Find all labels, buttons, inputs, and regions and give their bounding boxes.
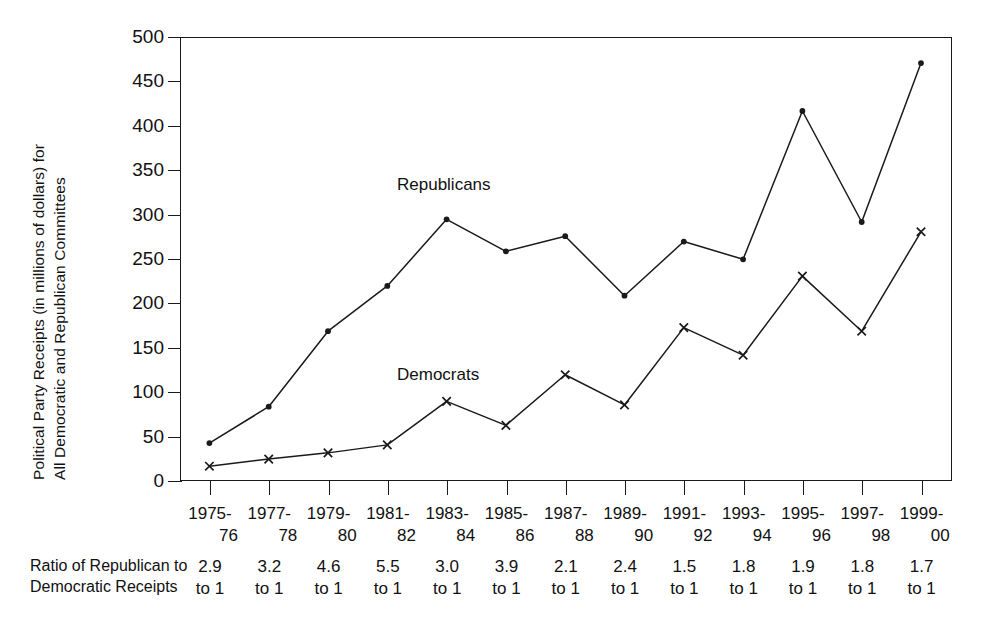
chart-page: Political Party Receipts (in millions of… [0, 0, 984, 633]
data-point [739, 351, 747, 359]
data-point [800, 108, 806, 114]
x-tick-mark [862, 481, 863, 495]
data-point [740, 256, 746, 262]
y-axis-title-line-1: Political Party Receipts (in millions of… [30, 144, 48, 480]
x-tick-mark [625, 481, 626, 495]
data-point [562, 233, 568, 239]
data-point [503, 248, 509, 254]
data-point [798, 272, 806, 280]
data-point [266, 404, 272, 410]
x-tick-mark [210, 481, 211, 495]
x-tick-mark [507, 481, 508, 495]
ratio-value: 1.7 [886, 556, 958, 578]
series-republicans [207, 60, 924, 446]
x-tick-mark [684, 481, 685, 495]
data-point [384, 283, 390, 289]
data-point [207, 440, 213, 446]
data-point [680, 323, 688, 331]
ratio-row-label-line-1: Ratio of Republican to [30, 557, 187, 574]
x-tick-mark [744, 481, 745, 495]
x-tick-mark [566, 481, 567, 495]
data-point [502, 421, 510, 429]
series-line [209, 232, 921, 466]
data-point [681, 239, 687, 245]
plot-area [180, 37, 952, 481]
x-axis-label-line-2: 00 [886, 525, 958, 547]
data-point [918, 60, 924, 66]
x-tick-mark [388, 481, 389, 495]
y-tick-label: 400 [108, 116, 164, 135]
y-axis-title-line-2: All Democratic and Republican Committees [51, 177, 69, 480]
series-label-democrats: Democrats [397, 365, 479, 385]
data-point [561, 371, 569, 379]
y-tick-label: 50 [108, 427, 164, 446]
y-axis-title: Political Party Receipts (in millions of… [0, 0, 60, 500]
y-tick-label: 200 [108, 293, 164, 312]
ratio-suffix: to 1 [886, 578, 958, 600]
y-tick-label: 350 [108, 160, 164, 179]
y-tick-label: 500 [108, 27, 164, 46]
data-point [622, 293, 628, 299]
y-tick-label: 450 [108, 71, 164, 90]
y-tick-label: 0 [108, 471, 164, 490]
y-tick-label: 250 [108, 249, 164, 268]
y-tick-label: 300 [108, 205, 164, 224]
y-tick-label: 100 [108, 382, 164, 401]
series-line [209, 63, 921, 443]
x-axis-label: 1999-00 [886, 503, 958, 547]
data-point [858, 327, 866, 335]
x-tick-mark [803, 481, 804, 495]
data-point [620, 401, 628, 409]
series-canvas [181, 38, 950, 479]
x-tick-mark [922, 481, 923, 495]
x-axis-label-line-1: 1999- [886, 503, 958, 525]
data-point [444, 216, 450, 222]
data-point [859, 219, 865, 225]
series-label-republicans: Republicans [397, 175, 491, 195]
ratio-cell: 1.7to 1 [886, 556, 958, 600]
y-tick-label: 150 [108, 338, 164, 357]
x-tick-mark [329, 481, 330, 495]
x-tick-mark [269, 481, 270, 495]
data-point [442, 397, 450, 405]
data-point [325, 328, 331, 334]
y-tick-mark [168, 481, 182, 482]
data-point [917, 228, 925, 236]
x-tick-mark [447, 481, 448, 495]
